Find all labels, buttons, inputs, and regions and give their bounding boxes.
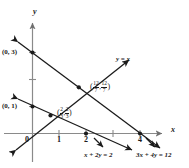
line-label-y-equals-x: y = x bbox=[116, 56, 130, 63]
xtick-label-1: 1 bbox=[57, 136, 61, 144]
equation-label-right: 3x + 4y = 12 bbox=[136, 152, 172, 159]
line-x-plus-2y-equals-2-segment bbox=[18, 99, 132, 150]
intersection-label-lower: (23,23) bbox=[57, 104, 72, 120]
intersection-lower-dot bbox=[48, 113, 52, 117]
xtick-label-2: 2 bbox=[84, 136, 88, 144]
equation-label-left: x + 2y = 2 bbox=[84, 152, 113, 159]
paren-close-upper: ) bbox=[107, 82, 110, 91]
xtick-label-4: 4 bbox=[138, 136, 142, 144]
line-x-plus-2y-equals-2 bbox=[18, 99, 132, 150]
graph-figure: y x y = x (0, 3) (0, 1) x + 2y = 2 3x + … bbox=[0, 0, 189, 168]
point-label-0-3: (0, 3) bbox=[2, 49, 17, 56]
y-axis-label: y bbox=[33, 8, 37, 16]
intersection-label-upper: (127,127) bbox=[90, 78, 110, 94]
x-axis-label: x bbox=[171, 126, 175, 134]
intersection-upper-dot bbox=[77, 85, 81, 89]
xtick-label-0: 0 bbox=[25, 136, 29, 144]
point-0-1-dot bbox=[30, 104, 34, 108]
point-label-0-1: (0, 1) bbox=[2, 103, 17, 110]
point-0-3-dot bbox=[30, 50, 34, 54]
paren-close-lower: ) bbox=[69, 108, 72, 117]
leader-eq-left bbox=[94, 138, 103, 147]
